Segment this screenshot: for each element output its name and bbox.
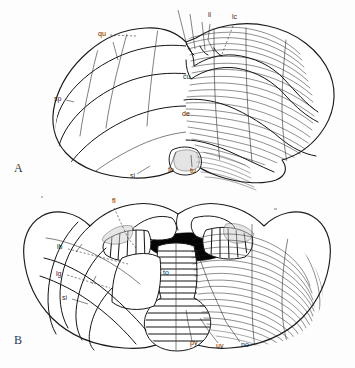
label-lg: lg [56,270,62,278]
label-lc: lc [232,13,238,20]
panel-letter-a: A [14,161,23,175]
panel-b-drawing: fl lb lg si to py uv no B [14,197,330,352]
figure-canvas: qu li lc sp cu de si fo tu A [0,0,355,368]
label-fl: fl [112,197,116,204]
label-si-b: si [62,294,68,301]
label-no: no [241,341,249,348]
label-de: de [182,110,190,117]
label-cu: cu [183,73,191,80]
label-si-a: si [130,172,136,179]
paper-speck-2 [41,196,43,198]
label-tu: tu [190,167,196,174]
panel-letter-b: B [14,333,22,347]
cerebellum-figure: qu li lc sp cu de si fo tu A [0,0,355,368]
label-fo: fo [168,166,174,173]
label-qu: qu [98,30,106,38]
paper-speck-1 [274,208,277,210]
label-to: to [163,269,169,276]
label-lb: lb [57,243,63,250]
label-sp: sp [54,95,62,103]
label-li: li [208,11,212,18]
label-py: py [190,339,198,347]
label-uv: uv [216,342,224,349]
panel-a-drawing: qu li lc sp cu de si fo tu A [14,10,334,190]
